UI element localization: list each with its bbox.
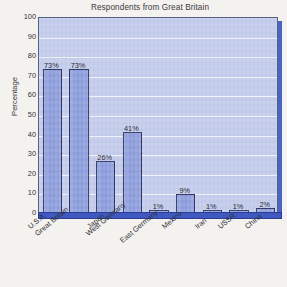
y-axis-tick-label: 60 <box>12 90 36 99</box>
y-axis-tick-label: 100 <box>12 12 36 21</box>
bar-sheen <box>70 70 87 212</box>
gridline <box>39 38 277 39</box>
y-axis-tick-label: 70 <box>12 70 36 79</box>
y-axis-tick-labels: 1009080706050403020100 <box>12 16 36 210</box>
x-axis-base <box>38 212 282 219</box>
bar-value-label: 2% <box>259 200 270 209</box>
y-axis-tick-label: 40 <box>12 129 36 138</box>
y-axis-tick-label: 30 <box>12 149 36 158</box>
x-axis-category-label: Iran <box>193 216 208 231</box>
bar-value-label: 1% <box>233 202 244 211</box>
bar-sheen <box>177 195 194 212</box>
x-axis-category-labels: U.S.A.Great BritainJapanWest GermanyEast… <box>0 219 287 287</box>
bar-sheen <box>97 162 114 212</box>
bar-value-label: 41% <box>124 124 139 133</box>
y-axis-tick-label: 10 <box>12 188 36 197</box>
y-axis-tick-label: 90 <box>12 31 36 40</box>
bar <box>96 161 115 212</box>
bar <box>176 194 195 212</box>
bar-value-label: 73% <box>71 61 86 70</box>
y-axis-tick-label: 0 <box>12 208 36 217</box>
y-axis-tick-label: 20 <box>12 168 36 177</box>
bar <box>69 69 88 212</box>
bar-chart-figure: Respondents from Great Britain Percentag… <box>0 0 287 287</box>
bar <box>123 132 142 212</box>
bar-sheen <box>124 133 141 212</box>
bar-value-label: 9% <box>179 186 190 195</box>
bar-value-label: 73% <box>44 61 59 70</box>
y-axis-tick-label: 80 <box>12 51 36 60</box>
y-axis-tick-label: 50 <box>12 110 36 119</box>
bar-value-label: 1% <box>206 202 217 211</box>
bar <box>43 69 62 212</box>
bar-value-label: 26% <box>97 153 112 162</box>
bar-sheen <box>44 70 61 212</box>
gridline <box>39 57 277 58</box>
plot-area <box>38 17 278 213</box>
chart-title: Respondents from Great Britain <box>36 3 264 12</box>
